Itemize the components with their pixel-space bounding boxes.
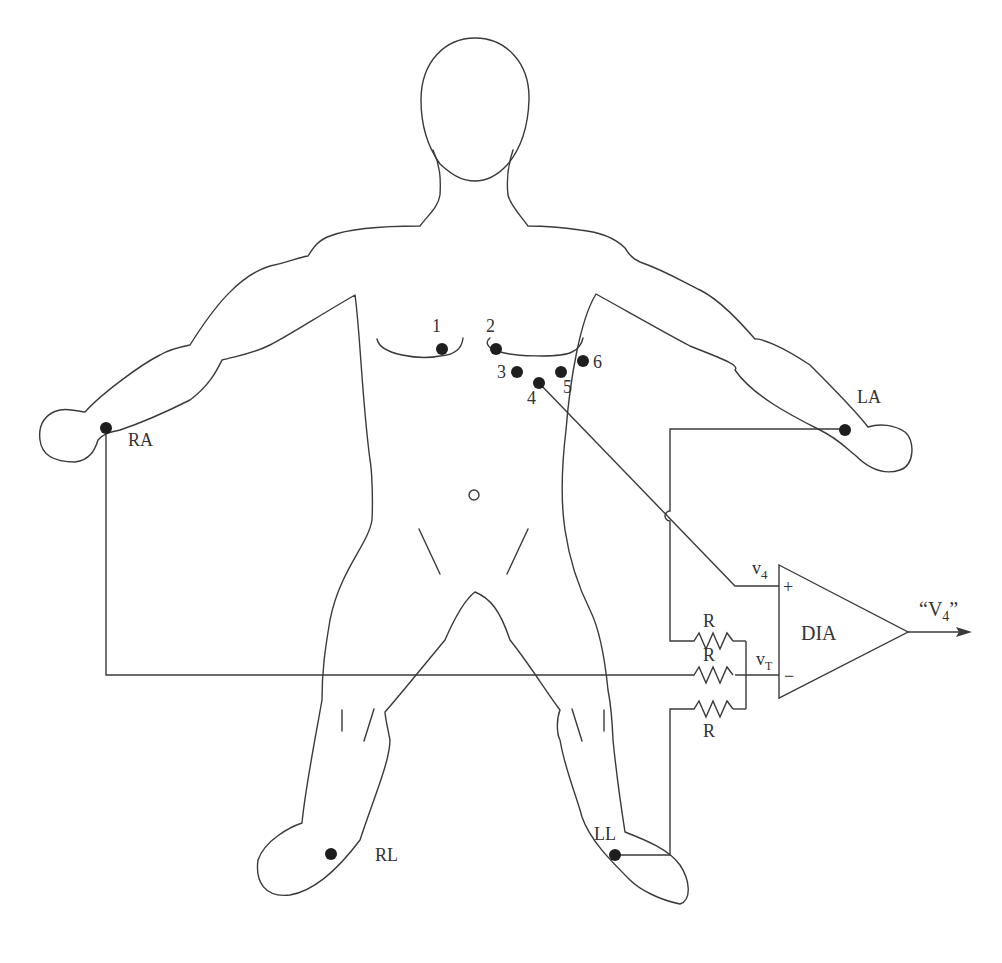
chest-electrodes: 1 2 3 4 5 6	[432, 316, 602, 408]
electrode-v4-label: 4	[527, 388, 536, 408]
resistor-bottom-label: R	[703, 721, 715, 741]
differential-instrumentation-amplifier: DIA + − v4 vT “V4”	[752, 558, 958, 698]
right-knee-mark-2	[364, 709, 374, 741]
electrode-ll-label: LL	[594, 824, 616, 844]
electrode-v6-label: 6	[593, 352, 602, 372]
ecg-lead-v4-diagram: R R R DIA + − v4 vT “V4” RA LA RL LL 1 2	[0, 0, 1002, 963]
ra-lead-wire	[106, 428, 690, 675]
left-collarbone	[487, 338, 583, 356]
resistor-network: R R R	[690, 611, 733, 741]
v4-lead-wire	[539, 383, 779, 586]
electrode-v6	[577, 355, 589, 367]
left-knee-mark-1	[572, 709, 582, 741]
human-body-outline	[40, 38, 912, 904]
limb-electrodes: RA LA RL LL	[100, 387, 881, 865]
body-silhouette	[40, 150, 912, 904]
electrode-rl	[325, 848, 337, 860]
v4-input-label: v4	[752, 558, 768, 582]
electrode-v5-label: 5	[563, 377, 572, 397]
electrode-v2-label: 2	[486, 316, 495, 336]
electrode-v2	[490, 343, 502, 355]
right-collarbone	[377, 338, 463, 357]
electrode-la	[839, 424, 851, 436]
electrode-rl-label: RL	[375, 845, 398, 865]
electrode-ra-label: RA	[128, 430, 153, 450]
electrode-v1	[436, 343, 448, 355]
plus-input-sign: +	[783, 577, 793, 597]
electrode-ll	[609, 849, 621, 861]
electrode-v3-label: 3	[497, 362, 506, 382]
electrode-v1-label: 1	[432, 316, 441, 336]
resistor-top-label: R	[703, 611, 715, 631]
resistor-bottom	[690, 701, 733, 717]
la-lead-wire	[665, 429, 845, 641]
electrode-la-label: LA	[857, 387, 881, 407]
electrode-ra	[100, 422, 112, 434]
electrode-v3	[511, 366, 523, 378]
right-hip-mark	[419, 529, 440, 574]
circuit-wires	[106, 383, 972, 855]
minus-input-sign: −	[784, 666, 794, 686]
amplifier-triangle	[779, 565, 908, 698]
left-hip-mark	[507, 529, 528, 574]
vt-input-label: vT	[756, 649, 773, 673]
navel	[469, 490, 479, 500]
resistor-middle-label: R	[703, 645, 715, 665]
amplifier-label: DIA	[801, 622, 837, 644]
output-label: “V4”	[919, 598, 958, 624]
resistor-middle	[690, 667, 733, 683]
